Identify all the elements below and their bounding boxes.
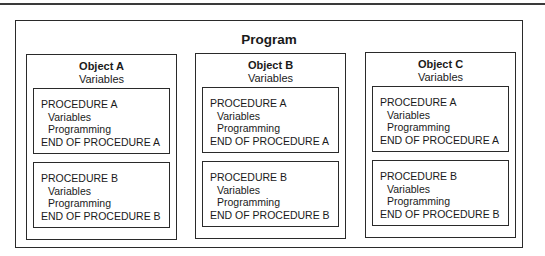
procedure-programming: Programming [41,123,169,136]
procedure-variables: Variables [210,184,338,197]
procedure-footer: END OF PROCEDURE B [380,208,508,221]
procedure-footer: END OF PROCEDURE A [41,136,169,149]
object-c-box: Object C Variables PROCEDURE A Variables… [365,52,516,238]
object-title: Object B [196,59,345,72]
procedure-header: PROCEDURE B [380,170,508,183]
procedure-variables: Variables [41,111,169,124]
procedure-b-box: PROCEDURE B Variables Programming END OF… [372,160,509,226]
procedure-variables: Variables [41,185,169,198]
program-title: Program [16,32,522,48]
object-variables: Variables [196,72,345,85]
procedure-b-box: PROCEDURE B Variables Programming END OF… [33,162,170,228]
procedure-programming: Programming [210,196,338,209]
object-title: Object C [366,58,515,71]
object-variables: Variables [366,71,515,84]
procedure-programming: Programming [41,197,169,210]
procedure-a-box: PROCEDURE A Variables Programming END OF… [372,86,509,152]
object-a-box: Object A Variables PROCEDURE A Variables… [26,54,177,240]
procedure-header: PROCEDURE B [41,172,169,185]
program-box: Program Object A Variables PROCEDURE A V… [15,20,523,248]
procedure-footer: END OF PROCEDURE A [380,134,508,147]
procedure-variables: Variables [380,109,508,122]
procedure-programming: Programming [380,121,508,134]
procedure-a-box: PROCEDURE A Variables Programming END OF… [33,88,170,154]
procedure-variables: Variables [380,183,508,196]
procedure-programming: Programming [380,195,508,208]
object-title: Object A [27,60,176,73]
object-b-box: Object B Variables PROCEDURE A Variables… [195,53,346,239]
procedure-footer: END OF PROCEDURE B [41,210,169,223]
procedure-a-box: PROCEDURE A Variables Programming END OF… [202,87,339,153]
procedure-variables: Variables [210,110,338,123]
procedure-footer: END OF PROCEDURE A [210,135,338,148]
procedure-programming: Programming [210,122,338,135]
procedure-header: PROCEDURE A [380,96,508,109]
procedure-header: PROCEDURE B [210,171,338,184]
procedure-b-box: PROCEDURE B Variables Programming END OF… [202,161,339,227]
procedure-header: PROCEDURE A [210,97,338,110]
procedure-footer: END OF PROCEDURE B [210,209,338,222]
object-variables: Variables [27,73,176,86]
top-rule [0,3,545,5]
procedure-header: PROCEDURE A [41,98,169,111]
